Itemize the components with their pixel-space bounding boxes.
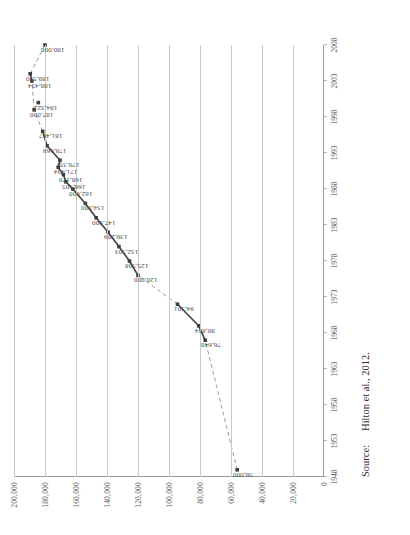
data-point-label: 184,322: [34, 104, 57, 112]
gridline: [76, 45, 77, 477]
x-axis-tick-label: 1968: [330, 326, 339, 341]
plot-area: 020,00040,00060,00080,000100,000120,0001…: [14, 45, 324, 477]
x-axis-tick-label: 1993: [330, 146, 339, 161]
source-citation: Hilton et al., 2012.: [360, 352, 371, 431]
y-axis-tick-label: 0: [320, 482, 329, 486]
x-axis-tick-mark: [324, 260, 327, 261]
x-axis-tick-mark: [324, 80, 327, 81]
gridline: [169, 45, 170, 477]
data-point-label: 125,508: [125, 262, 148, 270]
series-segment: [205, 340, 237, 470]
x-axis-tick-mark: [324, 404, 327, 405]
x-axis-tick-label: 2008: [330, 38, 339, 53]
data-point-label: 170,357: [56, 161, 79, 169]
x-axis-tick-mark: [324, 224, 327, 225]
source-label: Source:: [360, 445, 371, 477]
x-axis-tick-mark: [324, 152, 327, 153]
data-point-label: 120,000: [134, 276, 157, 284]
data-point-label: 154,000: [81, 204, 104, 212]
data-point-label: 132,303: [115, 248, 138, 256]
x-axis-tick-label: 1998: [330, 110, 339, 125]
x-axis-tick-label: 1978: [330, 254, 339, 269]
data-point-label: 80,834: [195, 327, 215, 335]
x-axis-tick-mark: [324, 44, 327, 45]
x-axis-tick-mark: [324, 332, 327, 333]
x-axis-tick-mark: [324, 476, 327, 477]
x-axis-tick-label: 1958: [330, 398, 339, 413]
data-point-label: 171,434: [54, 168, 77, 176]
data-point-label: 139,289: [104, 233, 127, 241]
x-axis-tick-label: 1963: [330, 362, 339, 377]
y-axis-tick-label: 200,000: [10, 482, 19, 508]
data-point-label: 56,000: [233, 471, 253, 479]
data-point-label: 187,000: [30, 111, 53, 119]
source-note: Source:Hilton et al., 2012.: [360, 352, 371, 477]
y-axis-tick-label: 160,000: [72, 482, 81, 508]
x-axis-tick-mark: [324, 296, 327, 297]
x-axis-tick-mark: [324, 188, 327, 189]
data-point-label: 76,648: [201, 341, 221, 349]
y-axis-tick-label: 60,000: [227, 482, 236, 504]
gridline: [293, 45, 294, 477]
data-point-label: 166,505: [62, 183, 85, 191]
x-axis-tick-label: 1948: [330, 470, 339, 485]
data-point-label: 147,000: [92, 219, 115, 227]
x-axis-tick-label: 1973: [330, 290, 339, 305]
data-point-label: 189,530: [26, 75, 49, 83]
gridline: [262, 45, 263, 477]
y-axis-tick-label: 40,000: [258, 482, 267, 504]
rotated-page-wrapper: 020,00040,00060,00080,000100,000120,0001…: [0, 0, 410, 535]
x-axis-tick-mark: [324, 116, 327, 117]
x-axis-tick-label: 2003: [330, 74, 339, 89]
data-point-label: 180,000: [41, 46, 64, 54]
x-axis-tick-label: 1983: [330, 218, 339, 233]
data-point-label: 168,170: [59, 176, 82, 184]
gridline: [107, 45, 108, 477]
x-axis-tick-mark: [324, 440, 327, 441]
data-point-label: 181,467: [39, 132, 62, 140]
y-axis-tick-label: 20,000: [289, 482, 298, 504]
y-axis-tick-label: 80,000: [196, 482, 205, 504]
data-point-label: 178,669: [43, 147, 66, 155]
y-axis-tick-label: 100,000: [165, 482, 174, 508]
data-point-label: 188,454: [28, 82, 51, 90]
gridline: [200, 45, 201, 477]
gridline: [231, 45, 232, 477]
gridline: [138, 45, 139, 477]
x-axis-tick-label: 1953: [330, 434, 339, 449]
gridline: [14, 45, 15, 477]
y-axis-tick-label: 180,000: [41, 482, 50, 508]
data-point-label: 94,501: [174, 305, 194, 313]
x-axis-tick-mark: [324, 368, 327, 369]
chart-figure: 020,00040,00060,00080,000100,000120,0001…: [0, 0, 410, 535]
y-axis-tick-label: 120,000: [134, 482, 143, 508]
data-point-label: 162,000: [69, 190, 92, 198]
x-axis-tick-label: 1988: [330, 182, 339, 197]
y-axis-tick-label: 140,000: [103, 482, 112, 508]
